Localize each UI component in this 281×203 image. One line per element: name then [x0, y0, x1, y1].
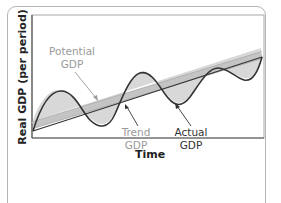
potential-gdp-label-line2: GDP: [61, 58, 84, 70]
potential-gdp-label-line1: Potential: [49, 45, 95, 57]
actual-gdp-label-line1: Actual: [175, 126, 208, 138]
trend-gdp-label-line1: Trend: [121, 126, 151, 138]
actual-gdp-arrow: [177, 106, 191, 126]
trend-gdp-arrow: [127, 107, 138, 126]
trend-gdp-arrowhead-icon: [125, 104, 129, 109]
x-axis-title: Time: [135, 148, 165, 161]
gdp-chart: Potential GDP Trend GDP Actual GDP Time …: [0, 0, 281, 203]
actual-gdp-label-line2: GDP: [180, 139, 203, 151]
y-axis-title: Real GDP (per period): [16, 9, 29, 145]
potential-gdp-arrow: [75, 72, 96, 98]
